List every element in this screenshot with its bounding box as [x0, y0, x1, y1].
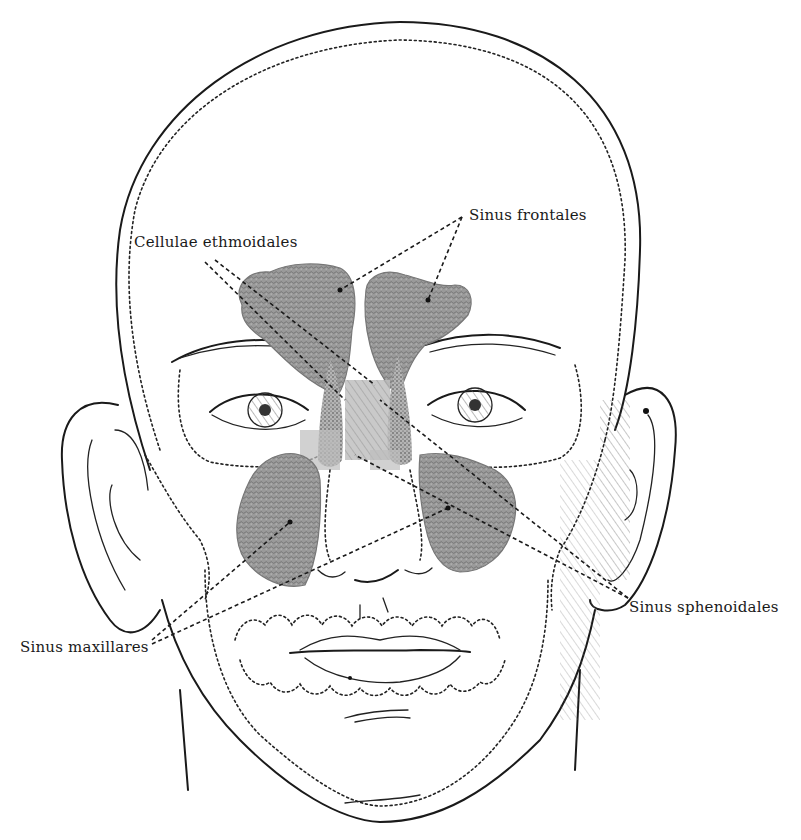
eyebrows: [172, 335, 560, 362]
left-eye: [210, 393, 308, 429]
label-sinus-sphenoidales: Sinus sphenoidales: [629, 598, 779, 616]
sinus-diagram: Cellulae ethmoidales Sinus frontales Sin…: [0, 0, 801, 840]
right-eye: [428, 388, 525, 427]
jaw-outline: [162, 570, 595, 822]
left-ear: [62, 403, 160, 633]
face-illustration: [0, 0, 801, 840]
maxillary-sinuses: [237, 453, 516, 586]
label-cellulae-ethmoidales: Cellulae ethmoidales: [134, 233, 298, 251]
label-sinus-maxillares: Sinus maxillares: [20, 638, 149, 656]
mouth: [290, 636, 470, 682]
sphenoid-sinus: [300, 380, 400, 470]
label-sinus-frontales: Sinus frontales: [469, 206, 587, 224]
teeth: [235, 615, 505, 695]
frontal-sinuses: [239, 264, 471, 395]
right-ear: [590, 388, 676, 610]
